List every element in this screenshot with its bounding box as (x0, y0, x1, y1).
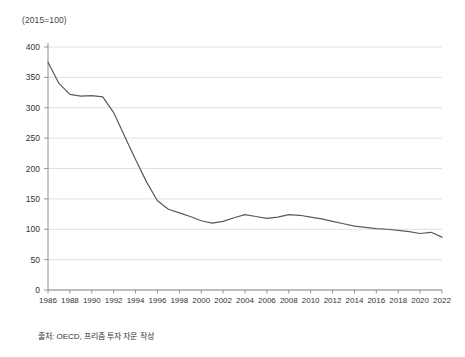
svg-text:350: 350 (26, 72, 40, 82)
svg-text:150: 150 (26, 194, 40, 204)
x-axis-ticks-group: 1986198819901992199419961998200020022004… (39, 290, 451, 305)
svg-text:2022: 2022 (433, 296, 451, 305)
svg-text:100: 100 (26, 224, 40, 234)
svg-text:2008: 2008 (280, 296, 298, 305)
svg-text:250: 250 (26, 133, 40, 143)
svg-text:1986: 1986 (39, 296, 57, 305)
svg-text:1988: 1988 (61, 296, 79, 305)
source-caption: 출처: OECD, 프리즘 투자 자문 작성 (38, 330, 154, 341)
y-axis-ticks-group: 050100150200250300350400 (26, 42, 48, 295)
axis-lines-group (48, 43, 442, 290)
gridlines-group (48, 47, 442, 290)
svg-text:2018: 2018 (389, 296, 407, 305)
line-chart-svg: 050100150200250300350400 198619881990199… (0, 0, 465, 357)
svg-text:2010: 2010 (302, 296, 320, 305)
chart-container: (2015=100) 050100150200250300350400 1986… (0, 0, 465, 357)
svg-text:300: 300 (26, 103, 40, 113)
svg-text:400: 400 (26, 42, 40, 52)
svg-text:1998: 1998 (170, 296, 188, 305)
svg-text:2012: 2012 (324, 296, 342, 305)
svg-text:1992: 1992 (105, 296, 123, 305)
svg-text:1994: 1994 (127, 296, 145, 305)
svg-text:50: 50 (31, 255, 41, 265)
svg-text:2004: 2004 (236, 296, 254, 305)
svg-text:1996: 1996 (149, 296, 167, 305)
svg-text:2000: 2000 (192, 296, 210, 305)
svg-text:2020: 2020 (411, 296, 429, 305)
svg-text:1990: 1990 (83, 296, 101, 305)
svg-text:2006: 2006 (258, 296, 276, 305)
svg-text:2002: 2002 (214, 296, 232, 305)
svg-text:2014: 2014 (346, 296, 364, 305)
svg-text:2016: 2016 (367, 296, 385, 305)
svg-text:0: 0 (35, 285, 40, 295)
data-series-group (48, 62, 442, 237)
svg-text:200: 200 (26, 164, 40, 174)
